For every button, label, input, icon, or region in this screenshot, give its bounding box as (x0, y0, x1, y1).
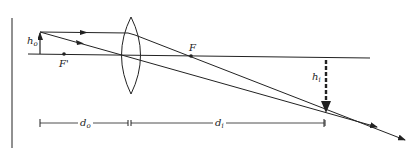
label-focal-right: F (189, 43, 196, 53)
focal-point-left (62, 52, 66, 56)
focal-point-right (189, 54, 193, 58)
label-object-height: ho (27, 36, 38, 48)
label-image-height: hi (312, 72, 321, 84)
label-focal-left: F' (59, 59, 69, 69)
ray-arrowhead (80, 30, 88, 35)
optical-axis (28, 54, 370, 58)
label-image-distance: di (213, 118, 226, 130)
lens-ray-diagram (0, 0, 413, 148)
label-object-distance: do (78, 118, 93, 130)
